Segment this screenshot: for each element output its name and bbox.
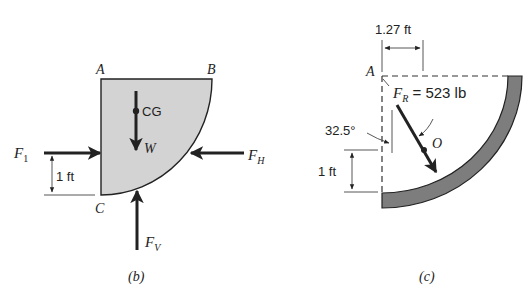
figure-b: A B C CG W F1 1 ft FH FV (b) bbox=[13, 62, 265, 285]
o-leader bbox=[419, 119, 433, 136]
point-a-label: A bbox=[95, 62, 105, 77]
point-o-label: O bbox=[432, 136, 442, 151]
caption-c: (c) bbox=[419, 269, 435, 285]
weight-label: W bbox=[144, 141, 157, 156]
point-o-dot bbox=[421, 147, 427, 153]
dimension-127ft-label: 1.27 ft bbox=[375, 22, 412, 37]
fh-label: FH bbox=[247, 147, 265, 166]
quarter-cylinder-body bbox=[101, 79, 212, 195]
point-b-label: B bbox=[207, 62, 216, 77]
cg-dot bbox=[133, 108, 139, 114]
point-a-label-c: A bbox=[365, 64, 375, 79]
angle-leader bbox=[367, 133, 389, 143]
dimension-1ft-label-c: 1 ft bbox=[318, 164, 336, 179]
a-leader bbox=[383, 79, 389, 86]
point-c-label: C bbox=[95, 201, 105, 216]
resultant-label: FR = 523 lb bbox=[392, 84, 466, 104]
fv-label: FV bbox=[144, 234, 162, 253]
f1-label: F1 bbox=[13, 145, 28, 164]
angle-label: 32.5° bbox=[325, 123, 356, 138]
figure-c: 1.27 ft A FR = 523 lb O 32.5° 1 ft (c) bbox=[318, 22, 522, 285]
cg-label: CG bbox=[142, 104, 162, 119]
caption-b: (b) bbox=[128, 269, 145, 285]
dimension-1ft-label: 1 ft bbox=[56, 169, 74, 184]
resultant-force-arrow bbox=[397, 105, 436, 172]
diagram-canvas: A B C CG W F1 1 ft FH FV (b) 1.2 bbox=[0, 0, 530, 299]
